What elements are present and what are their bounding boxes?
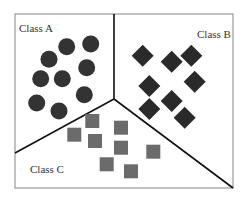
circle-point [54,70,71,87]
circle-point [51,103,68,120]
square-point [124,164,138,178]
diamond-point [184,71,206,93]
circle-point [32,70,49,87]
circle-point [58,38,75,55]
circle-point [76,86,93,103]
decision-boundaries [15,14,233,188]
square-point [146,145,160,159]
diamond-point [174,107,196,129]
diamond-point [138,98,160,120]
circle-point [78,59,95,76]
diamond-point [138,75,160,97]
diagram-frame [15,14,233,188]
diamond-point [132,45,154,67]
square-point [114,121,128,135]
diamond-point [161,90,183,112]
class-a-points [28,36,99,120]
circle-point [41,51,58,68]
class-c-label: Class C [30,163,64,175]
diamond-point [180,45,202,67]
circle-point [28,95,45,112]
square-point [85,114,99,128]
class-a-label: Class A [19,22,53,34]
square-point [88,134,102,148]
square-point [114,141,128,155]
square-point [67,128,81,142]
class-b-points [132,45,206,129]
classification-diagram: Class A Class B Class C [0,0,244,199]
square-point [100,157,114,171]
diamond-point [161,51,183,73]
class-b-label: Class B [197,28,231,40]
circle-point [82,36,99,53]
